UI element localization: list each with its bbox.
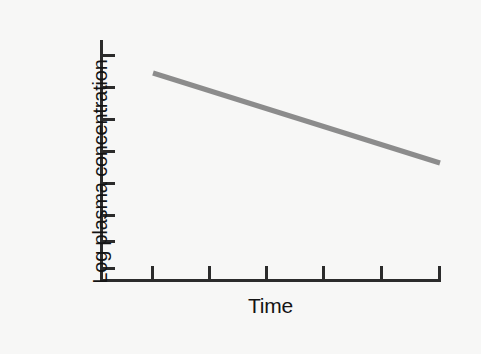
chart-figure: Log plasma concentration Time xyxy=(0,0,481,354)
data-line-log-plasma-concentration xyxy=(153,73,440,163)
x-axis-ticks xyxy=(153,266,440,279)
x-axis-label: Time xyxy=(101,294,440,318)
y-axis-label: Log plasma concentration xyxy=(89,47,112,297)
